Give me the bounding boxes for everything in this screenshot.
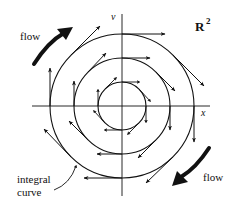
- arrow-icon: [69, 121, 88, 140]
- flow-label-top: flow: [20, 30, 40, 42]
- integral-curve-label-line1: integral: [17, 173, 51, 185]
- arrow-icon: [71, 26, 100, 55]
- arrow-icon: [88, 53, 106, 72]
- v-axis-label: v: [111, 11, 116, 22]
- space-label-superscript: 2: [206, 16, 211, 26]
- diagram-canvas: x v R 2: [0, 0, 240, 214]
- phase-portrait: x v R 2: [0, 0, 240, 214]
- arrow-icon: [156, 72, 175, 91]
- space-label-base: R: [195, 19, 205, 34]
- arrow-icon: [44, 129, 71, 157]
- flow-label-bottom: flow: [203, 171, 223, 183]
- integral-curve-pointer-icon: [54, 166, 76, 190]
- space-label: R 2: [195, 16, 211, 34]
- x-axis-label: x: [200, 107, 206, 118]
- integral-curve-label-line2: curve: [17, 186, 42, 198]
- integral-curve-annotation: integral curve: [17, 166, 76, 198]
- arrow-icon: [173, 55, 204, 86]
- arrow-icon: [138, 140, 156, 158]
- arrow-icon: [146, 157, 173, 183]
- vector-field-outer: [44, 26, 204, 183]
